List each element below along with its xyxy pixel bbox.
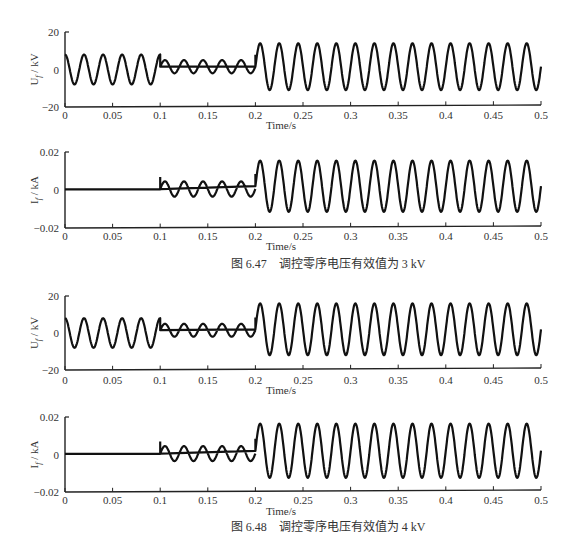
x-tick-label: 0.25 [293, 374, 313, 386]
x-tick-label: 0.35 [389, 230, 409, 242]
figure-caption: 图 6.47 调控零序电压有效值为 3 kV [231, 256, 426, 271]
y-tick-label: −20 [42, 101, 60, 113]
x-tick-label: 0.5 [534, 494, 548, 506]
y-tick-label: 20 [48, 26, 60, 38]
x-tick-label: 0.25 [293, 494, 313, 506]
x-tick-label: 0.1 [153, 230, 167, 242]
x-tick-label: 0.1 [153, 494, 167, 506]
x-tick-label: 0.3 [344, 109, 358, 121]
x-tick-label: 0.5 [534, 109, 548, 121]
y-tick-label: 0.02 [40, 411, 59, 423]
y-axis-label: Uf / kV [28, 317, 43, 349]
x-axis-label: Time/s [266, 240, 296, 252]
x-tick-label: 0.3 [344, 494, 358, 506]
y-tick-label: 0 [54, 64, 60, 76]
x-tick-label: 0.15 [198, 374, 218, 386]
y-tick-label: 0 [54, 449, 60, 461]
y-tick-label: 0.02 [40, 146, 59, 158]
x-tick-label: 0.2 [249, 109, 263, 121]
figure-caption: 图 6.48 调控零序电压有效值为 4 kV [231, 519, 426, 534]
x-tick-label: 0.4 [439, 109, 453, 121]
x-tick-label: 0.35 [389, 494, 409, 506]
waveform-line [65, 424, 541, 478]
y-tick-label: −0.02 [34, 222, 59, 234]
x-tick-label: 0 [62, 494, 68, 506]
y-tick-label: −0.02 [34, 486, 59, 498]
x-tick-label: 0 [62, 374, 68, 386]
x-tick-label: 0.5 [534, 374, 548, 386]
x-tick-label: 0 [62, 109, 68, 121]
x-tick-label: 0.45 [484, 374, 504, 386]
x-tick-label: 0.05 [103, 109, 123, 121]
x-tick-label: 0.2 [249, 494, 263, 506]
figure-canvas: 00.050.10.150.20.250.30.350.40.450.5200−… [0, 0, 570, 538]
x-tick-label: 0.05 [103, 374, 123, 386]
x-tick-label: 0.3 [344, 374, 358, 386]
y-axis-label: Uf / kV [28, 53, 43, 85]
x-tick-label: 0.1 [153, 374, 167, 386]
x-tick-label: 0.15 [198, 230, 218, 242]
x-axis-label: Time/s [266, 384, 296, 396]
x-tick-label: 0.15 [198, 494, 218, 506]
x-tick-label: 0.45 [484, 230, 504, 242]
x-tick-label: 0.4 [439, 494, 453, 506]
x-tick-label: 0.35 [389, 109, 409, 121]
y-tick-label: 0 [54, 184, 60, 196]
x-tick-label: 0.35 [389, 374, 409, 386]
y-tick-label: −20 [42, 364, 60, 376]
x-tick-label: 0.2 [249, 374, 263, 386]
x-axis-label: Time/s [266, 505, 296, 517]
x-tick-label: 0.4 [439, 374, 453, 386]
x-tick-label: 0.05 [103, 230, 123, 242]
x-tick-label: 0.3 [344, 230, 358, 242]
x-tick-label: 0.2 [249, 230, 263, 242]
waveform-line [65, 43, 541, 90]
x-axis-label: Time/s [266, 119, 296, 131]
x-tick-label: 0.05 [103, 494, 123, 506]
x-tick-label: 0.45 [484, 109, 504, 121]
x-tick-label: 0.4 [439, 230, 453, 242]
y-axis-label: If / kA [28, 176, 43, 204]
x-tick-label: 0 [62, 230, 68, 242]
x-tick-label: 0.1 [153, 109, 167, 121]
x-tick-label: 0.15 [198, 109, 218, 121]
x-tick-label: 0.45 [484, 494, 504, 506]
waveform-line [65, 303, 541, 355]
y-tick-label: 0 [54, 327, 60, 339]
y-tick-label: 20 [48, 290, 60, 302]
x-tick-label: 0.25 [293, 109, 313, 121]
x-tick-label: 0.5 [534, 230, 548, 242]
x-tick-label: 0.25 [293, 230, 313, 242]
y-axis-label: If / kA [28, 440, 43, 468]
waveform-line [65, 161, 541, 212]
